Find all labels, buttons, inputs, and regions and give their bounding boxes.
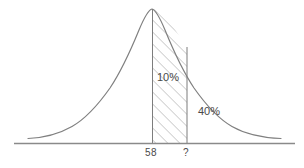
axis-tick-label-mean: 58 [145, 148, 157, 158]
tail-region-percent-label: 40% [198, 106, 220, 117]
axis-tick-label-unknown: ? [183, 148, 189, 158]
distribution-chart-canvas [0, 0, 304, 168]
normal-distribution-figure: 10% 40% 58 ? [0, 0, 304, 168]
shaded-region-percent-label: 10% [157, 72, 179, 83]
